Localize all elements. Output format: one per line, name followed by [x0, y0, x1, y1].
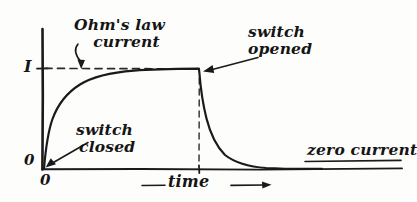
- annotation-ohms-law-line2: current: [88, 34, 165, 51]
- annotation-switch-opened: switchopened: [248, 24, 312, 57]
- annotation-switch-closed: switchclosed: [76, 122, 135, 155]
- y-axis-label-I: I: [24, 58, 32, 75]
- x-axis-label-time: time: [168, 173, 209, 190]
- time-label-arrowhead: [262, 182, 272, 189]
- switch-closed-arrowhead: [46, 158, 56, 167]
- switch-opened-arrow: [211, 58, 259, 71]
- zero-current-underline: [305, 160, 401, 161]
- annotation-zero-current: zero current: [307, 142, 417, 159]
- x-axis-label-zero: 0: [40, 172, 51, 188]
- annotation-switch-opened-line2: opened: [248, 41, 312, 58]
- switch-opened-arrowhead: [203, 65, 214, 73]
- annotation-switch-closed-line2: closed: [79, 139, 135, 156]
- annotation-ohms-law-current: Ohm's lawcurrent: [74, 17, 165, 50]
- ohms-law-arrowhead: [77, 60, 85, 69]
- x-axis: [42, 168, 402, 169]
- y-axis-label-zero: 0: [24, 152, 35, 168]
